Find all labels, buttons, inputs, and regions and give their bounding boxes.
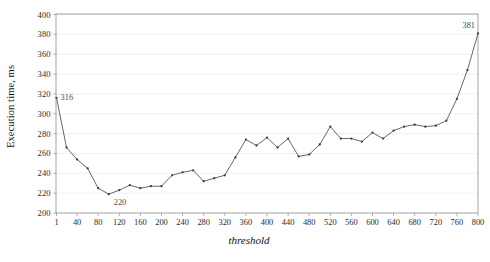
x-axis-tick-label: 760 bbox=[451, 218, 464, 227]
data-point bbox=[171, 174, 173, 176]
data-label: 381 bbox=[462, 21, 475, 30]
x-axis-tick-label: 800 bbox=[472, 218, 485, 227]
gridlines bbox=[57, 15, 479, 194]
x-axis-tick-label: 200 bbox=[155, 218, 168, 227]
y-axis-tick-labels: 200220240260280300320340360380400 bbox=[38, 10, 57, 219]
x-axis-tick-label: 680 bbox=[408, 218, 421, 227]
y-axis-tick-label: 260 bbox=[38, 148, 51, 158]
data-point bbox=[65, 146, 67, 148]
y-axis-title-text: Execution time, ms bbox=[6, 65, 17, 148]
data-point bbox=[192, 169, 194, 171]
data-point bbox=[371, 131, 373, 133]
x-axis-tick-label: 1 bbox=[54, 218, 58, 227]
data-point bbox=[382, 137, 384, 139]
data-point bbox=[213, 177, 215, 179]
data-label: 220 bbox=[114, 198, 127, 207]
data-point bbox=[181, 171, 183, 173]
data-point bbox=[297, 155, 299, 157]
x-axis-tick-label: 520 bbox=[324, 218, 337, 227]
data-point bbox=[203, 180, 205, 182]
data-point bbox=[350, 137, 352, 139]
data-point bbox=[86, 167, 88, 169]
y-axis-tick-label: 200 bbox=[38, 208, 51, 218]
x-axis-tick-label: 160 bbox=[134, 218, 147, 227]
data-point bbox=[340, 137, 342, 139]
data-point bbox=[245, 138, 247, 140]
data-point bbox=[55, 97, 57, 99]
data-annotations: 316220381 bbox=[61, 21, 476, 207]
x-axis-tick-label: 440 bbox=[282, 218, 295, 227]
x-axis-tick-label: 240 bbox=[176, 218, 189, 227]
data-point bbox=[276, 146, 278, 148]
x-axis-tick-label: 400 bbox=[261, 218, 274, 227]
x-axis-tick-label: 360 bbox=[240, 218, 253, 227]
y-axis-title: Execution time, ms bbox=[2, 0, 20, 213]
x-axis-tick-label: 720 bbox=[430, 218, 443, 227]
data-point bbox=[224, 174, 226, 176]
data-point bbox=[97, 187, 99, 189]
data-point bbox=[392, 129, 394, 131]
chart-figure: Execution time, ms 200220240260280300320… bbox=[0, 0, 490, 262]
x-axis-tick-label: 280 bbox=[197, 218, 210, 227]
data-point bbox=[435, 125, 437, 127]
line-chart-plot: 200220240260280300320340360380400 140801… bbox=[0, 0, 490, 230]
y-axis-tick-label: 320 bbox=[38, 89, 51, 99]
x-axis-tick-label: 600 bbox=[366, 218, 379, 227]
data-point bbox=[466, 69, 468, 71]
data-point bbox=[150, 185, 152, 187]
x-axis-tick-label: 120 bbox=[113, 218, 126, 227]
data-point bbox=[477, 32, 479, 34]
data-point bbox=[414, 124, 416, 126]
data-point bbox=[361, 140, 363, 142]
data-point bbox=[308, 153, 310, 155]
data-point bbox=[129, 184, 131, 186]
y-axis-tick-label: 340 bbox=[38, 69, 51, 79]
data-point bbox=[329, 126, 331, 128]
data-point bbox=[319, 143, 321, 145]
data-point bbox=[108, 193, 110, 195]
data-point bbox=[76, 158, 78, 160]
y-axis-tick-label: 400 bbox=[38, 10, 51, 20]
y-axis-tick-label: 360 bbox=[38, 49, 51, 59]
data-point bbox=[287, 137, 289, 139]
data-point bbox=[266, 136, 268, 138]
data-point bbox=[255, 144, 257, 146]
data-point bbox=[118, 189, 120, 191]
data-point bbox=[456, 98, 458, 100]
x-axis-tick-label: 80 bbox=[94, 218, 102, 227]
x-axis-title: threshold bbox=[0, 234, 490, 246]
data-point bbox=[424, 126, 426, 128]
data-point bbox=[445, 120, 447, 122]
data-point bbox=[234, 156, 236, 158]
data-point bbox=[139, 187, 141, 189]
x-axis-tick-labels: 1408012016020024028032036040044048052056… bbox=[54, 213, 484, 227]
data-point bbox=[403, 126, 405, 128]
x-axis-tick-label: 640 bbox=[387, 218, 400, 227]
y-axis-tick-label: 220 bbox=[38, 188, 51, 198]
data-point bbox=[160, 185, 162, 187]
x-axis-title-text: threshold bbox=[228, 234, 269, 246]
y-axis-tick-label: 280 bbox=[38, 129, 51, 139]
x-axis-tick-label: 560 bbox=[345, 218, 358, 227]
y-axis-tick-label: 380 bbox=[38, 29, 51, 39]
x-axis-tick-label: 40 bbox=[73, 218, 81, 227]
data-label: 316 bbox=[61, 93, 74, 102]
y-axis-tick-label: 300 bbox=[38, 109, 51, 119]
y-axis-tick-label: 240 bbox=[38, 168, 51, 178]
x-axis-tick-label: 480 bbox=[303, 218, 316, 227]
x-axis-tick-label: 320 bbox=[218, 218, 231, 227]
